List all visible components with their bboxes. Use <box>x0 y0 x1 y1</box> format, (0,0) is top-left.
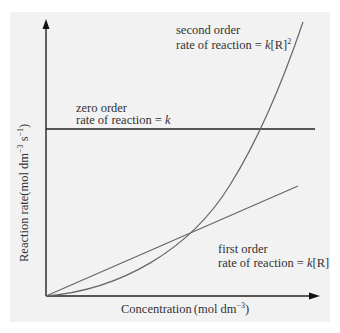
second-order-title: second order <box>176 23 241 37</box>
chart-svg: second order rate of reaction = k[R]2 ze… <box>0 0 340 333</box>
first-order-title: first order <box>218 242 268 256</box>
x-axis-label: Concentration(mol dm−3) <box>121 301 249 316</box>
second-order-equation: rate of reaction = k[R]2 <box>176 37 291 52</box>
zero-order-equation: rate of reaction = k <box>76 113 171 127</box>
first-order-line <box>46 186 298 296</box>
y-axis-arrow-icon <box>43 19 50 29</box>
first-order-equation: rate of reaction = k[R] <box>218 256 329 270</box>
y-axis-label: Reaction rate(mol dm−3 s−1) <box>16 124 31 262</box>
x-axis-arrow-icon <box>309 293 320 300</box>
